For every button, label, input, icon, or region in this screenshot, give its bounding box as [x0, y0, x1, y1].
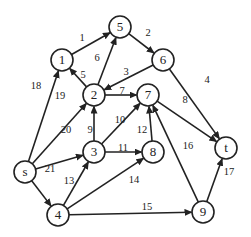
graph-diagram: 123456789101112131415161718192021 s15627… — [0, 0, 251, 237]
edge-s-3 — [36, 155, 83, 169]
edge-weight-label: 3 — [123, 66, 128, 77]
edge-weight-label: 12 — [137, 124, 148, 135]
node-label: 6 — [160, 52, 167, 67]
edge-weight-label: 10 — [115, 114, 126, 125]
edge-6-t — [169, 69, 219, 139]
edge-weight-label: 18 — [31, 80, 42, 91]
edge-weight-label: 4 — [204, 74, 210, 85]
node-label: 1 — [59, 52, 66, 67]
node-8: 8 — [142, 141, 164, 163]
node-4: 4 — [47, 204, 69, 226]
node-3: 3 — [83, 141, 105, 163]
edge-weight-label: 15 — [142, 201, 153, 212]
node-label: 5 — [117, 19, 124, 34]
edge-weight-label: 17 — [224, 166, 235, 177]
node-label: 4 — [55, 207, 62, 222]
node-s: s — [14, 161, 36, 183]
nodes-layer: s15627t3849 — [14, 16, 237, 226]
edge-weight-label: 5 — [80, 69, 85, 80]
edge-weight-label: 20 — [61, 124, 72, 135]
node-5: 5 — [109, 16, 131, 38]
edge-weight-label: 13 — [64, 175, 75, 186]
edge-weight-label: 16 — [183, 140, 194, 151]
edge-weight-label: 14 — [129, 174, 140, 185]
node-label: t — [224, 140, 228, 155]
edge-weight-label: 11 — [118, 142, 128, 153]
node-label: s — [22, 164, 27, 179]
edge-8-7 — [149, 106, 152, 141]
node-2: 2 — [83, 84, 105, 106]
edge-9-t — [207, 159, 222, 202]
edge-weight-label: 6 — [94, 52, 99, 63]
node-label: 2 — [91, 87, 98, 102]
node-label: 8 — [150, 144, 157, 159]
node-7: 7 — [137, 84, 159, 106]
node-label: 3 — [91, 144, 98, 159]
edge-2-5 — [98, 38, 116, 85]
node-1: 1 — [51, 49, 73, 71]
node-t: t — [215, 137, 237, 159]
node-6: 6 — [152, 49, 174, 71]
edge-1-5 — [72, 33, 110, 55]
directed-graph-canvas: 123456789101112131415161718192021 s15627… — [0, 0, 251, 237]
node-label: 7 — [145, 87, 152, 102]
edge-weight-label: 21 — [45, 163, 56, 174]
edge-4-9 — [69, 212, 192, 215]
node-9: 9 — [192, 201, 214, 223]
node-label: 9 — [200, 204, 207, 219]
edge-weight-label: 19 — [55, 90, 66, 101]
edge-weight-label: 9 — [87, 124, 92, 135]
edge-s-2 — [32, 104, 86, 164]
edge-weight-label: 2 — [145, 27, 150, 38]
edge-s-4 — [32, 181, 51, 206]
edge-weight-label: 8 — [182, 94, 187, 105]
edge-weight-label: 7 — [119, 85, 124, 96]
edge-weight-label: 1 — [79, 32, 84, 43]
